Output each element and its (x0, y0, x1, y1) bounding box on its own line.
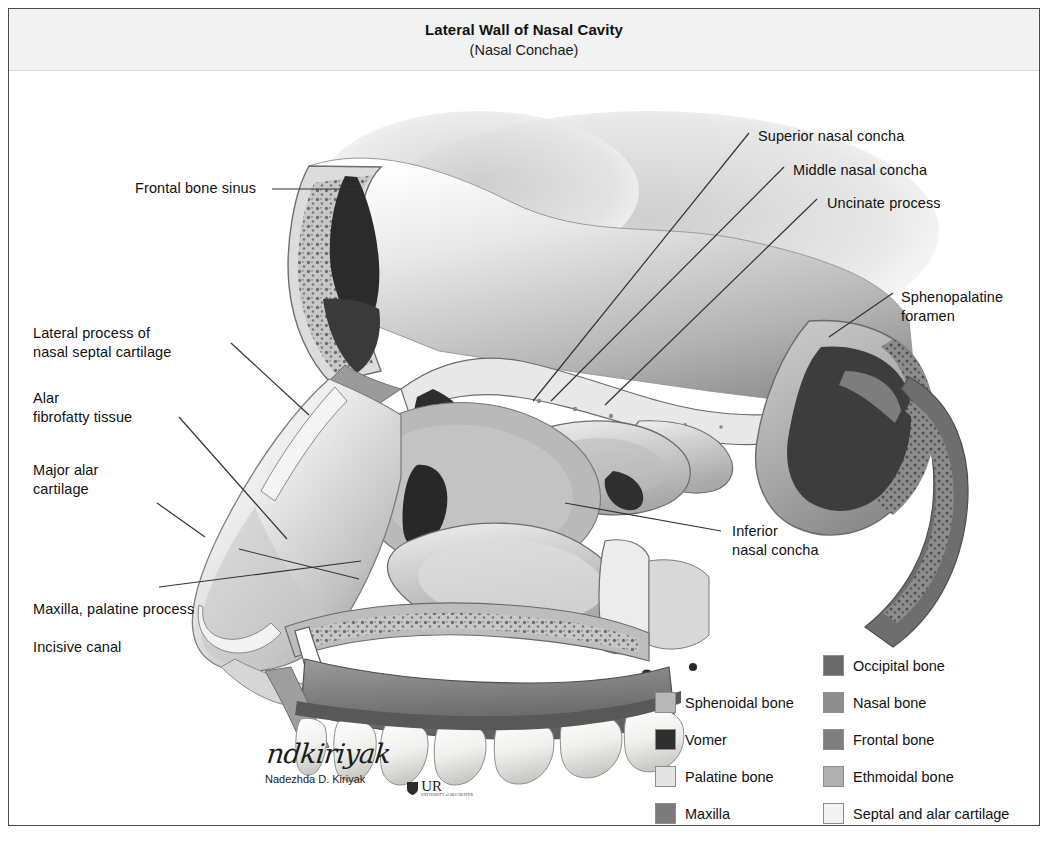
leader-lateral-process (231, 343, 309, 415)
figure-subtitle: (Nasal Conchae) (470, 40, 579, 60)
label-major-alar-cartilage: Major alar cartilage (33, 461, 98, 499)
label-alar-fibrofatty-tissue: Alar fibrofatty tissue (33, 389, 132, 427)
signature-script: ndkiriyak (257, 739, 480, 769)
university-logo-text: UR (421, 780, 473, 793)
legend-label-frontal-bone: Frontal bone (853, 732, 934, 748)
legend-label-ethmoidal-bone: Ethmoidal bone (853, 769, 954, 785)
legend-swatch-vomer (655, 729, 676, 750)
legend-column-right: Occipital bone Nasal bone Frontal bone E… (823, 647, 1009, 832)
legend-swatch-occipital-bone (823, 655, 844, 676)
shield-icon (406, 781, 419, 796)
legend-label-palatine-bone: Palatine bone (685, 769, 774, 785)
legend-label-sphenoidal-bone: Sphenoidal bone (685, 695, 794, 711)
legend-item-palatine-bone: Palatine bone (655, 758, 794, 795)
legend-swatch-nasal-bone (823, 692, 844, 713)
label-uncinate-process: Uncinate process (827, 194, 941, 213)
legend-item-occipital-bone: Occipital bone (823, 647, 1009, 684)
leader-major-alar-cartilage (157, 503, 205, 537)
legend-item-septal-and-alar-cartilage: Septal and alar cartilage (823, 795, 1009, 832)
palatine-bone-posterior (649, 560, 709, 649)
university-logo-subtext: UNIVERSITY of ROCHESTER (421, 793, 473, 797)
label-lateral-process-of-nasal-septal-cartilage: Lateral process of nasal septal cartilag… (33, 324, 171, 362)
legend-item-frontal-bone: Frontal bone (823, 721, 1009, 758)
figure-title: Lateral Wall of Nasal Cavity (425, 20, 623, 40)
legend-label-occipital-bone: Occipital bone (853, 658, 945, 674)
legend-swatch-maxilla (655, 803, 676, 824)
legend-item-maxilla: Maxilla (655, 795, 794, 832)
label-inferior-nasal-concha: Inferior nasal concha (732, 522, 819, 560)
legend-item-ethmoidal-bone: Ethmoidal bone (823, 758, 1009, 795)
legend-swatch-palatine-bone (655, 766, 676, 787)
label-maxilla-palatine-process: Maxilla, palatine process (33, 600, 194, 619)
legend-label-maxilla: Maxilla (685, 806, 730, 822)
figure-title-band: Lateral Wall of Nasal Cavity (Nasal Conc… (9, 9, 1039, 71)
artist-signature-block: ndkiriyak Nadezhda D. Kiriyak UR UNIVERS… (259, 739, 479, 801)
legend-swatch-ethmoidal-bone (823, 766, 844, 787)
signature-printed-name: Nadezhda D. Kiriyak (259, 773, 365, 785)
legend-item-vomer: Vomer (655, 721, 794, 758)
legend-label-septal-and-alar-cartilage: Septal and alar cartilage (853, 806, 1009, 822)
label-incisive-canal: Incisive canal (33, 638, 121, 657)
legend-swatch-sphenoidal-bone (655, 692, 676, 713)
figure-frame: Lateral Wall of Nasal Cavity (Nasal Conc… (8, 8, 1040, 826)
legend-swatch-frontal-bone (823, 729, 844, 750)
label-frontal-bone-sinus: Frontal bone sinus (135, 179, 256, 198)
legend-item-sphenoidal-bone: Sphenoidal bone (655, 684, 794, 721)
label-superior-nasal-concha: Superior nasal concha (758, 127, 904, 146)
legend-swatch-septal-and-alar-cartilage (823, 803, 844, 824)
legend-column-left: Sphenoidal bone Vomer Palatine bone Maxi… (655, 684, 794, 832)
legend-item-nasal-bone: Nasal bone (823, 684, 1009, 721)
label-sphenopalatine-foramen: Sphenopalatine foramen (901, 288, 1003, 326)
label-middle-nasal-concha: Middle nasal concha (793, 161, 927, 180)
university-logo: UR UNIVERSITY of ROCHESTER (406, 780, 473, 797)
legend-label-nasal-bone: Nasal bone (853, 695, 926, 711)
legend: Sphenoidal bone Vomer Palatine bone Maxi… (655, 641, 1045, 821)
legend-label-vomer: Vomer (685, 732, 727, 748)
